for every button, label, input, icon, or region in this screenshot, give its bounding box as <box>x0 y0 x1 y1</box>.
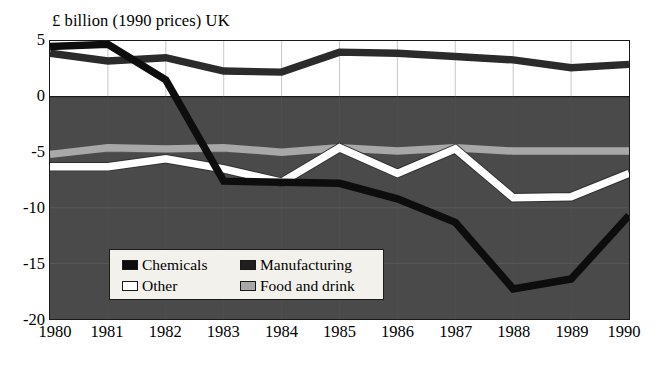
legend-label: Manufacturing <box>260 257 352 273</box>
legend-row: Chemicals Manufacturing <box>110 254 383 275</box>
x-tick-label: 1984 <box>265 322 298 342</box>
legend-item-other: Other <box>110 278 238 294</box>
legend-item-food-and-drink: Food and drink <box>238 278 355 294</box>
y-tick-label: 0 <box>1 86 45 106</box>
legend-swatch-icon <box>240 260 256 270</box>
x-tick-label: 1990 <box>608 322 641 342</box>
legend-label: Food and drink <box>260 278 355 294</box>
legend: Chemicals Manufacturing Other Food and d… <box>109 249 384 300</box>
x-tick-label: 1982 <box>149 322 182 342</box>
legend-swatch-icon <box>122 260 138 270</box>
x-tick-label: 1981 <box>91 322 124 342</box>
x-axis: 1980198119821983198419851986198719881989… <box>49 322 630 348</box>
legend-swatch-icon <box>122 281 138 291</box>
x-tick-label: 1980 <box>39 322 72 342</box>
legend-item-manufacturing: Manufacturing <box>238 257 352 273</box>
legend-row: Other Food and drink <box>110 275 383 296</box>
x-tick-label: 1989 <box>555 322 588 342</box>
chart-container: £ billion (1990 prices) UK 5 0 -5 -10 -1… <box>0 0 666 370</box>
y-tick-label: -10 <box>1 198 45 218</box>
x-tick-label: 1988 <box>497 322 530 342</box>
x-tick-label: 1987 <box>439 322 472 342</box>
x-tick-label: 1985 <box>323 322 356 342</box>
legend-swatch-icon <box>240 281 256 291</box>
y-tick-label: 5 <box>1 30 45 50</box>
y-axis: 5 0 -5 -10 -15 -20 <box>0 0 45 370</box>
legend-label: Chemicals <box>142 257 207 273</box>
x-tick-label: 1986 <box>381 322 414 342</box>
legend-label: Other <box>142 278 177 294</box>
chart-title: £ billion (1990 prices) UK <box>52 11 230 31</box>
y-tick-label: -5 <box>1 142 45 162</box>
x-tick-label: 1983 <box>207 322 240 342</box>
y-tick-label: -15 <box>1 254 45 274</box>
legend-item-chemicals: Chemicals <box>110 257 238 273</box>
